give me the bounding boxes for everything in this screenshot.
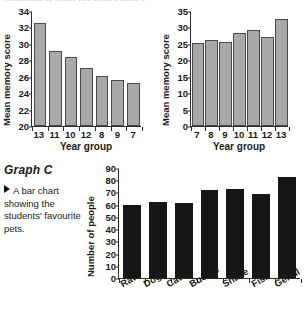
truncated-heading: (continued from previous page) bbox=[4, 0, 145, 1]
chart-a-x-axis-title: Year group bbox=[31, 142, 141, 152]
y-tick-mark bbox=[116, 169, 120, 170]
bar-13 bbox=[34, 23, 47, 126]
chart-c-x-tick-labels: RatDogCatBudgieSnakeFishGerbil bbox=[118, 281, 300, 291]
bar-cell bbox=[197, 169, 223, 278]
bar-7 bbox=[192, 43, 205, 126]
bar-9 bbox=[111, 80, 124, 126]
y-tick-mark bbox=[29, 61, 33, 62]
bar-cell bbox=[233, 12, 247, 126]
chart-a-bars bbox=[32, 12, 141, 126]
x-tick-label: 9 bbox=[218, 130, 232, 140]
graph-c-caption-text: A bar chart showing the students' favour… bbox=[4, 185, 81, 234]
chart-c-bars bbox=[119, 169, 300, 278]
x-tick-label: 12 bbox=[78, 130, 94, 140]
bar-cell bbox=[79, 12, 95, 126]
y-tick-mark bbox=[116, 205, 120, 206]
bar-cell bbox=[48, 12, 64, 126]
y-tick-mark bbox=[116, 230, 120, 231]
bar-cell bbox=[119, 169, 145, 278]
y-tick-mark bbox=[116, 181, 120, 182]
bar-cell bbox=[94, 12, 110, 126]
y-tick-mark bbox=[188, 61, 192, 62]
bar-dog bbox=[149, 202, 167, 278]
bar-11 bbox=[247, 30, 260, 126]
x-tick-label: 7 bbox=[125, 130, 141, 140]
chart-b: Mean memory score 05101520253035 7891011… bbox=[158, 4, 306, 154]
bar-gerbil bbox=[278, 177, 296, 278]
bar-cell bbox=[191, 12, 205, 126]
chart-a-x-tick-labels: 13111012897 bbox=[31, 130, 141, 140]
x-tick-label: 12 bbox=[260, 130, 274, 140]
bar-10 bbox=[65, 57, 78, 126]
y-tick-mark bbox=[188, 110, 192, 111]
bar-rat bbox=[123, 205, 141, 278]
bar-cell bbox=[274, 12, 288, 126]
y-tick-mark bbox=[188, 44, 192, 45]
y-tick-mark bbox=[116, 266, 120, 267]
bar-10 bbox=[233, 33, 246, 126]
x-tick-mark bbox=[289, 127, 290, 131]
graph-c-heading: Graph C bbox=[4, 163, 53, 177]
x-tick-label: 10 bbox=[62, 130, 78, 140]
y-tick-mark bbox=[188, 77, 192, 78]
y-tick-mark bbox=[29, 28, 33, 29]
bar-12 bbox=[80, 68, 93, 126]
bar-7 bbox=[127, 83, 140, 126]
x-tick-label: 11 bbox=[47, 130, 63, 140]
bar-cell bbox=[260, 12, 274, 126]
bar-cat bbox=[175, 203, 193, 278]
y-tick-mark bbox=[116, 242, 120, 243]
chart-b-x-tick-labels: 78910111213 bbox=[190, 130, 288, 140]
x-tick-label: 8 bbox=[204, 130, 218, 140]
bar-13 bbox=[275, 19, 288, 126]
x-tick-label: 11 bbox=[246, 130, 260, 140]
y-tick-mark bbox=[29, 94, 33, 95]
chart-a-y-axis-label: Mean memory score bbox=[2, 14, 12, 126]
bar-cell bbox=[219, 12, 233, 126]
chart-c-plot-area: 0102030405060708090 bbox=[118, 169, 300, 279]
bar-cell bbox=[248, 169, 274, 278]
bar-cell bbox=[125, 12, 141, 126]
y-tick-mark bbox=[188, 28, 192, 29]
x-tick-label: 13 bbox=[31, 130, 47, 140]
bar-8 bbox=[96, 76, 109, 126]
x-tick-label: 10 bbox=[232, 130, 246, 140]
triangle-right-icon bbox=[4, 185, 10, 193]
x-tick-label: 13 bbox=[274, 130, 288, 140]
bar-cell bbox=[274, 169, 300, 278]
chart-b-plot-area: 05101520253035 bbox=[190, 12, 288, 127]
graph-c-caption: A bar chart showing the students' favour… bbox=[4, 185, 90, 235]
x-tick-mark bbox=[301, 279, 302, 283]
bar-cell bbox=[171, 169, 197, 278]
y-tick-mark bbox=[29, 110, 33, 111]
bar-cell bbox=[110, 12, 126, 126]
bar-12 bbox=[261, 37, 274, 126]
x-tick-label: 9 bbox=[110, 130, 126, 140]
bar-11 bbox=[49, 51, 62, 126]
bar-cell bbox=[222, 169, 248, 278]
bar-8 bbox=[205, 40, 218, 126]
x-tick-mark bbox=[142, 127, 143, 131]
chart-c-y-axis-label: Number of people bbox=[86, 171, 96, 277]
bar-cell bbox=[246, 12, 260, 126]
y-tick-mark bbox=[29, 12, 33, 13]
bar-cell bbox=[32, 12, 48, 126]
bar-fish bbox=[252, 194, 270, 278]
bar-cell bbox=[205, 12, 219, 126]
y-tick-mark bbox=[116, 217, 120, 218]
y-tick-mark bbox=[29, 77, 33, 78]
bar-9 bbox=[219, 42, 232, 126]
y-tick-mark bbox=[188, 94, 192, 95]
chart-a-plot-area: 2022242628303234 bbox=[31, 12, 141, 127]
bar-cell bbox=[63, 12, 79, 126]
y-tick-mark bbox=[116, 254, 120, 255]
bar-cell bbox=[145, 169, 171, 278]
chart-a: Mean memory score 2022242628303234 13111… bbox=[0, 4, 152, 154]
chart-c: Number of people 0102030405060708090 Rat… bbox=[86, 163, 306, 317]
figure-page: (continued from previous page) Mean memo… bbox=[0, 0, 306, 317]
chart-b-bars bbox=[191, 12, 288, 126]
x-tick-label: 7 bbox=[190, 130, 204, 140]
chart-b-y-axis-label: Mean memory score bbox=[161, 14, 171, 126]
y-tick-mark bbox=[188, 12, 192, 13]
bar-snake bbox=[226, 189, 244, 278]
